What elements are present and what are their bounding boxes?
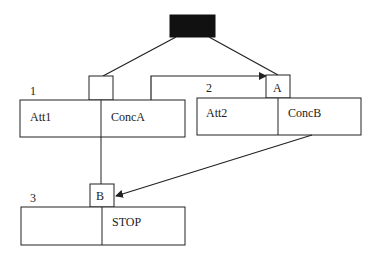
node-3-number: 3 [30,191,36,205]
node-1-right-label: ConcA [111,110,145,124]
node-2-left-label: Att2 [206,106,227,120]
node-2-number: 2 [206,81,212,95]
root-node [170,15,215,37]
node-1-tab [89,76,113,100]
edge-concb-to-b [116,135,312,196]
edge-root-to-node2 [209,37,278,75]
node-1: 1 Att1 ConcA [20,76,185,137]
edge-root-to-node1 [103,37,176,76]
node-1-left-label: Att1 [30,110,51,124]
node-1-number: 1 [30,84,36,98]
node-3-tab-label: B [96,189,104,203]
diagram-canvas: 1 Att1 ConcA 2 A Att2 ConcB 3 B STOP [0,0,378,256]
node-3: 3 B STOP [21,184,185,245]
node-3-box [21,207,185,245]
node-3-right-label: STOP [112,215,141,229]
node-2-tab-label: A [273,81,282,95]
node-2: 2 A Att2 ConcB [197,75,361,135]
node-2-right-label: ConcB [288,106,321,120]
diagram-svg: 1 Att1 ConcA 2 A Att2 ConcB 3 B STOP [0,0,378,256]
